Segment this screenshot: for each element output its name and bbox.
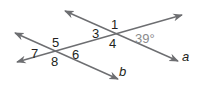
transversal-line [17, 15, 182, 62]
angle-5-label: 5 [52, 35, 59, 50]
angle-3-label: 3 [92, 26, 99, 41]
angle-4-label: 4 [109, 36, 116, 51]
angle-7-label: 7 [31, 46, 38, 61]
angle-1-label: 1 [111, 17, 118, 32]
diagram-canvas: 1 3 4 39° 5 7 6 8 a b [0, 0, 203, 85]
angle-2-measure: 39° [135, 31, 155, 46]
angle-6-label: 6 [72, 47, 79, 62]
line-a-label: a [182, 49, 189, 64]
angle-8-label: 8 [51, 54, 58, 69]
diagram-svg: 1 3 4 39° 5 7 6 8 a b [0, 0, 203, 85]
line-b-label: b [119, 64, 126, 79]
line-a [65, 11, 178, 61]
